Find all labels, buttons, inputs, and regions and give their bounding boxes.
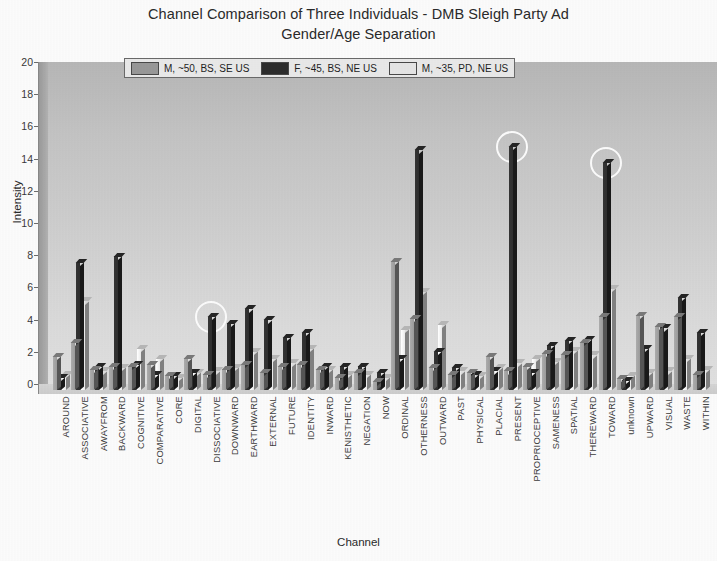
bar-side-3d [160,358,164,390]
y-tick-label: 2 [1,346,33,358]
x-tick-label: INWARD [325,396,335,435]
x-tick-label: OUTWARD [438,396,448,445]
bar-group [202,62,221,394]
bar-side-3d [612,288,616,390]
bar-group [616,62,635,394]
bar-side-3d [80,263,84,390]
bar-side-3d [249,309,253,390]
bar-group [672,62,691,394]
bar [184,358,188,390]
bar-side-3d [212,317,216,390]
bar-side-3d [301,365,305,390]
bar-top-3d [76,259,87,263]
bar-side-3d [395,261,399,390]
y-tick-label: 8 [1,249,33,261]
x-tick-label: PROPRIOCEPTIVE [532,396,542,481]
bar-group [597,62,616,394]
bar-group [465,62,484,394]
bar-group [390,62,409,394]
x-tick-label: NEGATION [362,396,372,445]
bar-face [53,357,57,390]
bar-group [484,62,503,394]
bar-group [126,62,145,394]
x-tick-label: THEREWARD [588,396,598,457]
bar-side-3d [687,358,691,390]
bar-side-3d [593,355,597,390]
bar-group [428,62,447,394]
bar-face [599,317,603,390]
bar-top-3d [565,337,576,341]
bar [599,317,603,390]
legend-label: F, ~45, BS, NE US [294,63,377,74]
bar-face [260,373,264,390]
bar-side-3d [400,358,404,390]
x-tick-label: AWAYFROM [99,396,109,451]
bar [486,357,490,390]
x-tick-label: IDENTITY [306,396,316,440]
bar-side-3d [320,369,324,390]
x-tick-label: PAST [456,396,466,420]
bar-side-3d [659,326,663,390]
x-tick-label: PRESENT [513,396,523,441]
bar-side-3d [565,355,569,390]
y-axis-label: Intensity [11,157,23,247]
x-tick-label: BACKWARD [117,396,127,451]
legend-entry[interactable]: M, ~35, PD, NE US [389,62,508,75]
bar [429,368,433,390]
bar-side-3d [569,341,573,390]
bar [165,376,169,390]
bar-top-3d [283,334,294,338]
bar-side-3d [546,353,550,390]
bar-side-3d [551,345,555,390]
bar-side-3d [588,339,592,390]
x-tick-label: VISUAL [664,396,674,430]
bar [674,317,678,390]
legend-label: M, ~35, PD, NE US [422,63,508,74]
bar-top-3d [486,353,497,357]
bar [109,366,113,390]
bar [523,366,527,390]
legend-entry[interactable]: F, ~45, BS, NE US [261,62,377,75]
bar-side-3d [645,349,649,390]
bar-face [486,357,490,390]
bar-side-3d [499,368,503,390]
bar-side-3d [527,366,531,390]
legend-label: M, ~50, BS, SE US [164,63,249,74]
bar [335,377,339,390]
legend: M, ~50, BS, SE USF, ~45, BS, NE USM, ~35… [124,58,515,78]
bar [71,342,75,390]
bar [297,365,301,390]
bar [410,318,414,390]
bar-side-3d [292,363,296,390]
bar-top-3d [509,143,520,147]
legend-entry[interactable]: M, ~50, BS, SE US [131,62,249,75]
legend-color-swatch [261,62,289,75]
bar [467,373,471,390]
bar-side-3d [85,301,89,390]
bar-side-3d [216,371,220,390]
bar-side-3d [310,349,314,390]
bar-top-3d [678,294,689,298]
bar [655,326,659,390]
bar-side-3d [231,323,235,390]
bar-group [258,62,277,394]
bar-top-3d [358,363,369,367]
bar-top-3d [603,159,614,163]
bar [260,373,264,390]
x-tick-label: WITHIN [701,396,711,430]
bar-side-3d [141,349,145,390]
bar-side-3d [442,325,446,390]
bar-top-3d [302,329,313,333]
bar-top-3d [245,305,256,309]
bar-top-3d [391,258,402,262]
bar-side-3d [461,371,465,390]
bar-side-3d [668,371,672,390]
x-tick-label: WASTE [682,396,692,430]
bar-side-3d [574,350,578,390]
y-tick-label: 4 [1,314,33,326]
bar-side-3d [245,365,249,390]
bar-group [409,62,428,394]
x-tick-label: CORE [174,396,184,424]
bar-top-3d [53,353,64,357]
x-tick-label: EARTHWARD [249,396,259,457]
